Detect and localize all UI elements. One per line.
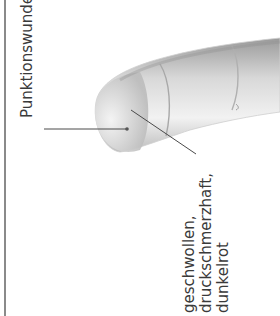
label-swollen-symptoms: geschwollen, druckschmerzhaft, dunkelrot	[181, 173, 232, 313]
label-line-3: dunkelrot	[215, 173, 232, 313]
label-line-1: geschwollen,	[181, 173, 198, 313]
finger-illustration	[0, 0, 280, 316]
label-puncture-wound: Punktionswunde	[19, 0, 36, 118]
label-line-2: druckschmerzhaft,	[198, 173, 215, 313]
fingertip	[95, 72, 148, 152]
